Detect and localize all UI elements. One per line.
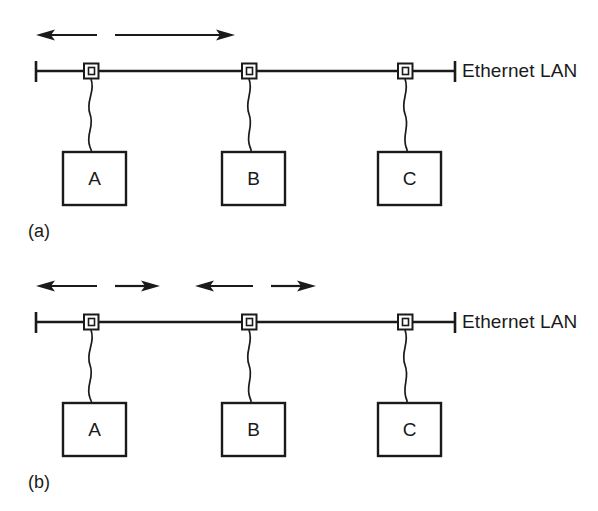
panel-a-station-c-label: C (403, 168, 417, 189)
panel-a-tap-a (84, 64, 99, 79)
panel-b-drop-cable-c (404, 330, 408, 404)
panel-a-drop-cable-a (89, 79, 93, 153)
panel-b-station-a: A (63, 403, 126, 456)
panel-b-tap-c (398, 315, 413, 330)
panel-a-station-c: C (378, 152, 441, 205)
panel-b-station-c-label: C (403, 419, 417, 440)
panel-a-tap-c (398, 64, 413, 79)
panel-b-arrow-group1-left (36, 281, 97, 292)
panel-a-drop-cable-b (248, 79, 252, 153)
panel-b-station-c: C (378, 403, 441, 456)
panel-b-drop-cable-b (248, 330, 252, 404)
panel-b: Ethernet LAN A (28, 281, 577, 492)
ethernet-lan-figure: Ethernet LAN A (0, 0, 598, 511)
panel-a-station-a: A (63, 152, 126, 205)
panel-b-drop-cable-a (89, 330, 93, 404)
panel-b-tap-a (84, 315, 99, 330)
panel-a-lan-label: Ethernet LAN (462, 60, 577, 81)
panel-b-tap-b (242, 315, 257, 330)
panel-a-station-b: B (222, 152, 285, 205)
figure-canvas: Ethernet LAN A (0, 0, 598, 511)
panel-a: Ethernet LAN A (28, 30, 577, 241)
panel-b-arrow-group2-right (271, 281, 316, 292)
panel-b-lan-label: Ethernet LAN (462, 311, 577, 332)
panel-b-station-b: B (222, 403, 285, 456)
panel-a-arrow-left (36, 30, 97, 41)
panel-b-arrow-group2-left (195, 281, 253, 292)
panel-b-station-b-label: B (247, 419, 260, 440)
panel-b-station-a-label: A (88, 419, 101, 440)
panel-a-station-b-label: B (247, 168, 260, 189)
panel-a-arrow-right (115, 30, 235, 41)
panel-b-arrow-group1-right (115, 281, 160, 292)
panel-a-label: (a) (28, 221, 50, 241)
panel-b-label: (b) (28, 472, 50, 492)
panel-a-drop-cable-c (404, 79, 408, 153)
panel-a-tap-b (242, 64, 257, 79)
panel-a-station-a-label: A (88, 168, 101, 189)
